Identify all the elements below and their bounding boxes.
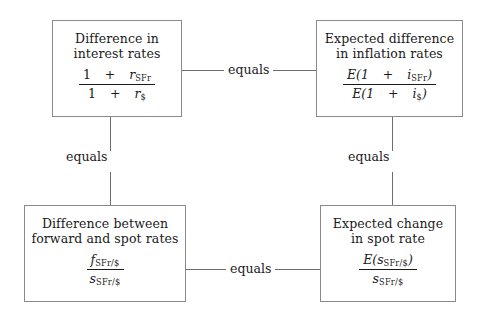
forward-spot-denominator: sSFr/$ — [86, 270, 125, 287]
box-interest-rates-heading: Difference in interest rates — [74, 32, 161, 62]
inflation-rates-denominator: E(1 + i$) — [348, 85, 431, 102]
inflation-rates-numerator: E(1 + iSFr) — [343, 67, 436, 85]
interest-rates-numerator: 1 + rSFr — [79, 67, 155, 85]
connector-line-top-left — [182, 70, 226, 71]
parity-conditions-diagram: Difference in interest rates 1 + rSFr 1 … — [0, 0, 487, 322]
connector-line-left-upper — [110, 117, 111, 151]
box-expected-spot-change[interactable]: Expected change in spot rate E(sSFr/$) s… — [320, 205, 456, 302]
box-inflation-rates-heading: Expected difference in inflation rates — [325, 32, 454, 62]
box-forward-spot-rates-formula: fSFr/$ sSFr/$ — [86, 252, 125, 288]
box-inflation-rates-formula: E(1 + iSFr) E(1 + i$) — [343, 67, 436, 103]
box-inflation-rates[interactable]: Expected difference in inflation rates E… — [316, 20, 463, 117]
box-interest-rates-formula: 1 + rSFr 1 + r$ — [79, 67, 155, 103]
connector-label-right: equals — [344, 151, 393, 164]
box-forward-spot-rates-heading: Difference between forward and spot rate… — [31, 217, 178, 247]
box-interest-rates[interactable]: Difference in interest rates 1 + rSFr 1 … — [52, 20, 182, 117]
connector-line-bottom-right — [272, 269, 320, 270]
spot-change-numerator: E(sSFr/$) — [359, 252, 417, 270]
connector-label-top: equals — [224, 64, 273, 77]
box-expected-spot-change-heading: Expected change in spot rate — [333, 217, 443, 247]
connector-label-left: equals — [62, 151, 111, 164]
box-forward-spot-rates[interactable]: Difference between forward and spot rate… — [24, 205, 186, 302]
spot-change-denominator: sSFr/$ — [369, 270, 408, 287]
connector-line-left-lower — [110, 172, 111, 205]
connector-label-bottom: equals — [226, 263, 275, 276]
connector-line-right-lower — [392, 172, 393, 205]
connector-line-top-right — [268, 70, 316, 71]
interest-rates-denominator: 1 + r$ — [84, 85, 150, 102]
connector-line-right-upper — [392, 117, 393, 151]
forward-spot-numerator: fSFr/$ — [87, 252, 124, 270]
box-expected-spot-change-formula: E(sSFr/$) sSFr/$ — [359, 252, 417, 288]
connector-line-bottom-left — [185, 269, 227, 270]
